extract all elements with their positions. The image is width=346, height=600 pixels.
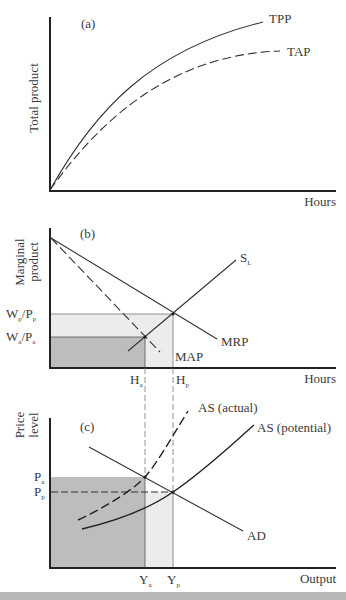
panel-b-tag: (b) xyxy=(80,226,95,241)
panel-c-y-label-2: level xyxy=(26,412,41,438)
panel-c-x-label: Output xyxy=(300,571,337,586)
tpp-label: TPP xyxy=(269,11,291,26)
eq-point-p xyxy=(171,312,174,315)
panel-c-tag: (c) xyxy=(80,419,94,434)
yp-tick: Yp xyxy=(167,572,180,589)
wp-pp-tick: Wp/Pp xyxy=(6,306,37,323)
as-potential-label: AS (potential) xyxy=(257,420,331,435)
panel-c-price-level: (c) AS (actual) AS (potential) AD Pa Pp … xyxy=(12,400,336,589)
ad-label: AD xyxy=(247,528,266,543)
bottom-gray-bar xyxy=(0,592,346,600)
eq-point-c-a xyxy=(143,475,146,478)
panel-b-x-label: Hours xyxy=(304,371,336,386)
ha-tick: Ha xyxy=(130,372,143,389)
mrp-label: MRP xyxy=(221,334,248,349)
panel-c-y-label-1: Price xyxy=(12,411,27,438)
panel-b-y-label-2: product xyxy=(26,242,41,282)
economics-diagram: (a) TPP TAP Total product Hours (b) SL M… xyxy=(0,0,346,600)
map-label: MAP xyxy=(175,349,203,364)
eq-point-a xyxy=(143,335,146,338)
wa-pa-tick: Wa/Pa xyxy=(6,329,36,346)
hp-tick: Hp xyxy=(176,372,189,389)
panel-a-tag: (a) xyxy=(81,16,95,31)
eq-point-c-p xyxy=(171,490,174,493)
panel-a-total-product: (a) TPP TAP Total product Hours xyxy=(26,11,336,209)
panel-c-dark-shade xyxy=(51,477,145,567)
as-actual-label: AS (actual) xyxy=(198,400,258,415)
panel-a-y-label: Total product xyxy=(26,63,41,133)
panel-a-x-label: Hours xyxy=(304,194,336,209)
tpp-curve xyxy=(50,22,263,190)
panel-b-marginal-product: (b) SL MRP MAP Wp/Pp Wa/Pa Ha Hp Hours M… xyxy=(6,226,336,389)
tap-label: TAP xyxy=(287,44,311,59)
ya-tick: Ya xyxy=(139,572,152,589)
pp-tick: Pp xyxy=(34,484,45,501)
panel-b-dark-shade xyxy=(51,337,145,367)
tap-curve xyxy=(50,51,280,190)
sl-label: SL xyxy=(240,250,252,267)
panel-b-y-label-1: Marginal xyxy=(12,238,27,286)
